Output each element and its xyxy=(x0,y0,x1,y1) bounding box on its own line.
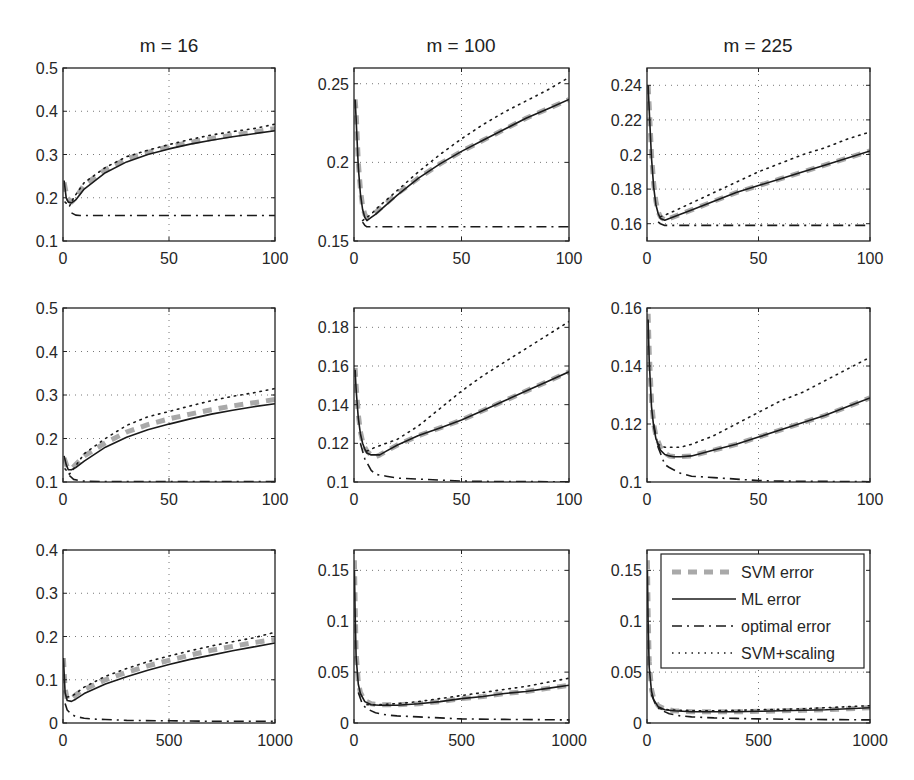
legend-label: SVM error xyxy=(741,564,815,581)
subplot-9: 00.050.10.1505001000SVM errorML erroropt… xyxy=(611,550,888,749)
y-tick-label: 0.16 xyxy=(611,300,642,317)
y-tick-label: 0.14 xyxy=(611,358,642,375)
y-tick-label: 0.22 xyxy=(611,112,642,129)
y-tick-label: 0.05 xyxy=(611,664,642,681)
x-tick-label: 500 xyxy=(448,732,475,749)
x-tick-label: 0 xyxy=(643,491,652,508)
x-tick-label: 0 xyxy=(350,250,359,267)
x-tick-label: 50 xyxy=(160,491,178,508)
x-tick-label: 100 xyxy=(556,250,583,267)
y-tick-label: 0.16 xyxy=(318,358,349,375)
x-tick-label: 100 xyxy=(262,491,289,508)
x-tick-label: 100 xyxy=(556,491,583,508)
y-tick-label: 0.05 xyxy=(318,664,349,681)
subplot-5: 0.10.120.140.160.18050100 xyxy=(318,308,583,508)
x-tick-label: 50 xyxy=(453,250,471,267)
x-tick-label: 1000 xyxy=(852,732,888,749)
legend-label: ML error xyxy=(741,591,802,608)
x-tick-label: 500 xyxy=(156,732,183,749)
y-tick-label: 0.14 xyxy=(318,397,349,414)
subplot-6: 0.10.120.140.16050100 xyxy=(611,300,884,508)
y-tick-label: 0.1 xyxy=(36,672,58,689)
y-tick-label: 0.2 xyxy=(36,190,58,207)
y-tick-label: 0.1 xyxy=(36,233,58,250)
y-tick-label: 0.12 xyxy=(318,435,349,452)
y-tick-label: 0 xyxy=(49,715,58,732)
y-tick-label: 0.1 xyxy=(36,474,58,491)
y-tick-label: 0.5 xyxy=(36,60,58,77)
x-tick-label: 500 xyxy=(745,732,772,749)
y-tick-label: 0.15 xyxy=(318,233,349,250)
y-tick-label: 0.2 xyxy=(327,154,349,171)
y-tick-label: 0.3 xyxy=(36,387,58,404)
y-tick-label: 0.4 xyxy=(36,542,58,559)
y-tick-label: 0.15 xyxy=(611,562,642,579)
y-tick-label: 0.1 xyxy=(620,613,642,630)
y-tick-label: 0.2 xyxy=(36,629,58,646)
y-tick-label: 0.12 xyxy=(611,416,642,433)
x-tick-label: 50 xyxy=(750,491,768,508)
x-tick-label: 100 xyxy=(262,250,289,267)
x-tick-label: 50 xyxy=(750,250,768,267)
x-tick-label: 1000 xyxy=(257,732,293,749)
x-tick-label: 1000 xyxy=(551,732,587,749)
subplot-4: 0.10.20.30.40.5050100 xyxy=(36,300,289,508)
y-tick-label: 0.4 xyxy=(36,103,58,120)
subplot-2: 0.150.20.25050100 xyxy=(318,68,583,267)
x-tick-label: 50 xyxy=(160,250,178,267)
x-tick-label: 50 xyxy=(453,491,471,508)
subplot-3: 0.160.180.20.220.24050100 xyxy=(611,68,884,267)
y-tick-label: 0.5 xyxy=(36,300,58,317)
y-tick-label: 0.3 xyxy=(36,585,58,602)
x-tick-label: 100 xyxy=(857,491,884,508)
y-tick-label: 0.1 xyxy=(327,613,349,630)
y-tick-label: 0.4 xyxy=(36,344,58,361)
y-tick-label: 0.18 xyxy=(611,181,642,198)
figure: m = 16 m = 100 m = 225 0.10.20.30.40.505… xyxy=(0,0,914,780)
subplot-1: 0.10.20.30.40.5050100 xyxy=(36,60,289,267)
y-tick-label: 0.24 xyxy=(611,77,642,94)
y-tick-label: 0 xyxy=(633,715,642,732)
x-tick-label: 0 xyxy=(59,491,68,508)
x-tick-label: 100 xyxy=(857,250,884,267)
legend-label: SVM+scaling xyxy=(741,645,835,662)
y-tick-label: 0.15 xyxy=(318,562,349,579)
x-tick-label: 0 xyxy=(59,732,68,749)
x-tick-label: 0 xyxy=(643,732,652,749)
y-tick-label: 0.2 xyxy=(620,147,642,164)
y-tick-label: 0.16 xyxy=(611,216,642,233)
y-tick-label: 0.3 xyxy=(36,147,58,164)
subplot-grid: 0.10.20.30.40.50501000.150.20.250501000.… xyxy=(0,0,914,780)
x-tick-label: 0 xyxy=(59,250,68,267)
y-tick-label: 0 xyxy=(340,715,349,732)
y-tick-label: 0.2 xyxy=(36,431,58,448)
y-tick-label: 0.18 xyxy=(318,319,349,336)
subplot-8: 00.050.10.1505001000 xyxy=(318,550,587,749)
legend: SVM errorML erroroptimal errorSVM+scalin… xyxy=(661,554,864,668)
x-tick-label: 0 xyxy=(643,250,652,267)
x-tick-label: 0 xyxy=(350,732,359,749)
y-tick-label: 0.25 xyxy=(318,76,349,93)
legend-label: optimal error xyxy=(741,618,831,635)
subplot-7: 00.10.20.30.405001000 xyxy=(36,542,293,749)
y-tick-label: 0.1 xyxy=(327,474,349,491)
x-tick-label: 0 xyxy=(350,491,359,508)
y-tick-label: 0.1 xyxy=(620,474,642,491)
